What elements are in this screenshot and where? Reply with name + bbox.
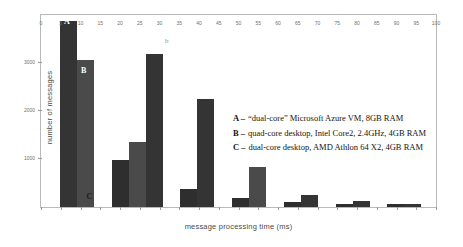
x-tick-label-5: 5	[59, 20, 62, 26]
x-tick-20	[120, 207, 121, 210]
panel-label-b: b	[165, 37, 169, 45]
x-tick-label-10: 10	[78, 20, 84, 26]
x-tick-50	[239, 207, 240, 210]
legend-key-b: B –	[233, 128, 245, 138]
legend-row-c: C –dual-core desktop, AMD Athlon 64 X2, …	[233, 142, 426, 152]
bar-c-bin7	[232, 198, 249, 207]
bar-a-bin9	[301, 195, 318, 207]
x-tick-0	[41, 207, 42, 210]
x-tick-label-75: 75	[334, 20, 340, 26]
bar-c-bin5	[180, 189, 197, 207]
legend-row-b: B –quad-core desktop, Intel Core2, 2.4GH…	[233, 128, 426, 138]
legend-key-a: A –	[233, 113, 245, 123]
y-tick-2000: 2000	[38, 110, 42, 111]
x-tick-75	[337, 207, 338, 210]
legend-row-a: A –“dual-core” Microsoft Azure VM, 8GB R…	[233, 113, 426, 123]
bar-a-bin11	[353, 201, 370, 207]
bar-b-bin1	[77, 60, 94, 207]
legend: A –“dual-core” Microsoft Azure VM, 8GB R…	[233, 113, 426, 157]
x-tick-15	[100, 207, 101, 210]
y-tick-label-3000: 3000	[24, 59, 35, 65]
x-tick-5	[61, 207, 62, 210]
y-tick-label-2000: 2000	[24, 107, 35, 113]
bar-tag-b: B	[81, 67, 86, 75]
x-tick-label-20: 20	[117, 20, 123, 26]
legend-desc-b: quad-core desktop, Intel Core2, 2.4GHz, …	[248, 128, 426, 138]
bar-c-bin3	[112, 160, 129, 207]
plot-area: ABC b number of messages 100020003000 05…	[40, 14, 437, 208]
x-tick-label-15: 15	[97, 20, 103, 26]
bar-a-bin5	[197, 99, 214, 207]
x-tick-label-80: 80	[354, 20, 360, 26]
x-tick-80	[357, 207, 358, 210]
x-tick-label-35: 35	[176, 20, 182, 26]
y-tick-3000: 3000	[38, 62, 42, 63]
y-axis-title: number of messages	[45, 23, 54, 193]
x-tick-60	[278, 207, 279, 210]
legend-key-c: C –	[233, 142, 246, 152]
bar-a-bin1	[60, 21, 77, 207]
x-tick-label-25: 25	[137, 20, 143, 26]
legend-desc-c: dual-core desktop, AMD Athlon 64 X2, 4GB…	[249, 142, 423, 152]
x-tick-70	[318, 207, 319, 210]
x-tick-label-90: 90	[394, 20, 400, 26]
bar-tag-a: A	[64, 18, 70, 26]
bar-b-bin3	[129, 142, 146, 207]
x-tick-label-50: 50	[236, 20, 242, 26]
x-tick-90	[397, 207, 398, 210]
legend-desc-a: “dual-core” Microsoft Azure VM, 8GB RAM	[248, 113, 403, 123]
x-tick-30	[160, 207, 161, 210]
x-tick-label-85: 85	[374, 20, 380, 26]
x-tick-label-95: 95	[413, 20, 419, 26]
x-tick-label-70: 70	[315, 20, 321, 26]
histogram-figure: ABC b number of messages 100020003000 05…	[0, 0, 463, 247]
x-tick-label-55: 55	[255, 20, 261, 26]
x-tick-25	[140, 207, 141, 210]
y-tick-1000: 1000	[38, 158, 42, 159]
y-tick-label-1000: 1000	[24, 155, 35, 161]
x-tick-label-40: 40	[196, 20, 202, 26]
bar-tag-c: C	[86, 193, 92, 201]
x-tick-65	[298, 207, 299, 210]
x-tick-label-0: 0	[40, 20, 43, 26]
x-tick-95	[416, 207, 417, 210]
bar-a-bin13	[404, 204, 421, 207]
x-tick-45	[219, 207, 220, 210]
x-tick-35	[179, 207, 180, 210]
x-tick-40	[199, 207, 200, 210]
x-tick-label-60: 60	[275, 20, 281, 26]
x-axis-title: message processing time (ms)	[40, 222, 437, 231]
x-tick-label-100: 100	[432, 20, 440, 26]
bars-layer	[41, 15, 436, 207]
x-tick-10	[81, 207, 82, 210]
bar-b-bin7	[249, 167, 266, 207]
bar-a-bin3	[146, 54, 163, 207]
x-tick-label-45: 45	[216, 20, 222, 26]
x-tick-55	[258, 207, 259, 210]
x-tick-label-30: 30	[157, 20, 163, 26]
x-tick-85	[377, 207, 378, 210]
x-tick-100	[436, 207, 437, 210]
x-tick-label-65: 65	[295, 20, 301, 26]
